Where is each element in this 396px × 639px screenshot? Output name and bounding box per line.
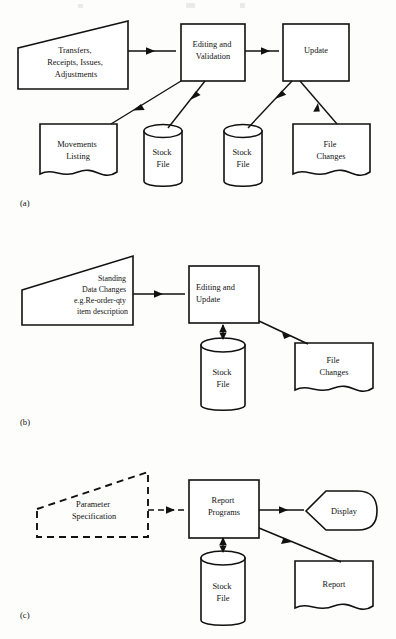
node-b-file-changes: File Changes xyxy=(295,343,373,391)
connector-a-input-to-editing xyxy=(128,47,176,55)
figure-a: Transfers, Receipts, Issues, Adjustments… xyxy=(0,0,396,220)
scan-artifact xyxy=(240,3,245,8)
node-b-input: Standing Data Changes e.g.Re-order-qty i… xyxy=(22,256,133,325)
figure-c-label: (c) xyxy=(20,610,30,620)
figure-a-label: (a) xyxy=(20,198,30,208)
connector-c-parameter-to-report-programs xyxy=(148,506,185,514)
scan-artifact xyxy=(78,4,83,8)
connector-c-report-programs-to-report xyxy=(259,528,341,562)
node-a-file-changes: File Changes xyxy=(293,124,370,175)
page-canvas: Transfers, Receipts, Issues, Adjustments… xyxy=(0,0,396,639)
node-a-update-label: Update xyxy=(304,46,328,55)
node-c-report-programs: Report Programs xyxy=(189,480,259,538)
node-b-stock-file: Stock File xyxy=(201,338,245,410)
connector-b-input-to-editing xyxy=(133,290,185,298)
scan-artifact xyxy=(186,3,195,8)
node-c-display-label: Display xyxy=(331,507,358,516)
node-c-parameter-specification-label: Parameter Specification xyxy=(72,500,117,521)
node-a-input: Transfers, Receipts, Issues, Adjustments xyxy=(18,21,128,89)
connector-a-editing-to-update xyxy=(245,47,279,55)
node-b-editing-update: Editing and Update xyxy=(189,266,259,323)
connector-c-report-programs-to-display xyxy=(259,506,304,514)
figure-c: Parameter Specification Report Programs … xyxy=(0,440,396,639)
node-a-stock-file-2: Stock File xyxy=(224,125,262,187)
node-a-movements-listing: Movements Listing xyxy=(40,124,117,175)
node-c-parameter-specification: Parameter Specification xyxy=(37,472,148,537)
connector-b-editing-to-file-changes xyxy=(259,321,308,344)
node-c-display: Display xyxy=(306,491,377,530)
node-a-update: Update xyxy=(283,24,349,81)
connector-a-stock-file-1-to-editing xyxy=(168,81,205,128)
node-c-stock-file: Stock File xyxy=(201,551,245,625)
figure-b: Standing Data Changes e.g.Re-order-qty i… xyxy=(0,220,396,440)
connector-a-stock-file-2-to-update xyxy=(248,81,292,128)
figure-b-label: (b) xyxy=(20,417,30,427)
connector-a-update-to-file-changes xyxy=(300,81,337,124)
node-a-stock-file-1: Stock File xyxy=(144,125,182,187)
node-c-report: Report xyxy=(295,561,373,609)
node-c-report-label: Report xyxy=(323,580,346,589)
node-a-editing-validation: Editing and Validation xyxy=(181,24,245,81)
